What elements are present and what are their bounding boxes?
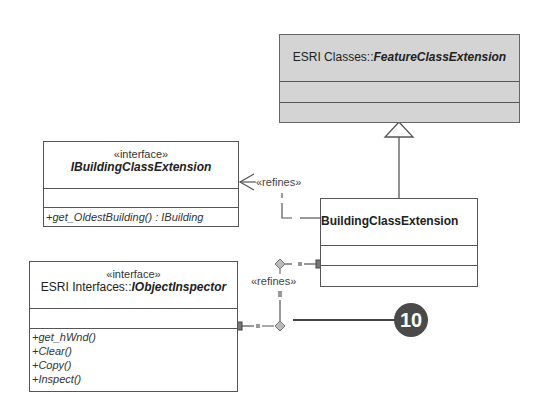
interface-name: IObjectInspector bbox=[132, 280, 227, 294]
operation-item[interactable]: +Copy() bbox=[30, 358, 237, 372]
class-name: FeatureClassExtension bbox=[373, 50, 506, 64]
namespace-label: ESRI Interfaces:: bbox=[41, 280, 132, 294]
attributes-section bbox=[321, 245, 477, 265]
operations-section bbox=[321, 265, 477, 286]
stereotype-label: «interface» bbox=[44, 148, 238, 160]
operation-item[interactable]: +Clear() bbox=[30, 344, 237, 358]
attributes-section bbox=[44, 188, 238, 207]
class-name: BuildingClassExtension bbox=[321, 199, 477, 245]
generalization-arrow-icon bbox=[385, 122, 413, 137]
ibuilding-class-extension-interface[interactable]: «interface» IBuildingClassExtension +get… bbox=[43, 141, 239, 227]
operation-item[interactable]: +get_OldestBuilding() : IBuilding bbox=[44, 207, 238, 226]
class-title: ESRI Classes::FeatureClassExtension bbox=[280, 35, 519, 81]
operations-section: +get_hWnd() +Clear() +Copy() +Inspect() bbox=[30, 328, 237, 386]
diamond-icon bbox=[275, 259, 285, 269]
iobject-inspector-interface[interactable]: «interface» ESRI Interfaces::IObjectInsp… bbox=[29, 261, 238, 392]
operations-section bbox=[280, 102, 519, 122]
operation-item[interactable]: +get_hWnd() bbox=[30, 330, 237, 344]
building-class-extension-class[interactable]: BuildingClassExtension bbox=[320, 198, 478, 287]
diamond-icon bbox=[275, 321, 285, 331]
namespace-label: ESRI Classes:: bbox=[293, 50, 374, 64]
refines-label: «refines» bbox=[256, 176, 301, 188]
callout-badge: 10 bbox=[394, 303, 428, 337]
refines-label: «refines» bbox=[251, 275, 296, 287]
interface-header: «interface» ESRI Interfaces::IObjectInsp… bbox=[30, 262, 237, 308]
interface-header: «interface» IBuildingClassExtension bbox=[44, 142, 238, 188]
stereotype-label: «interface» bbox=[30, 268, 237, 280]
attributes-section bbox=[280, 81, 519, 102]
attributes-section bbox=[30, 308, 237, 328]
interface-name: IBuildingClassExtension bbox=[44, 160, 238, 174]
feature-class-extension-class[interactable]: ESRI Classes::FeatureClassExtension bbox=[279, 34, 520, 123]
operation-item[interactable]: +Inspect() bbox=[30, 372, 237, 386]
